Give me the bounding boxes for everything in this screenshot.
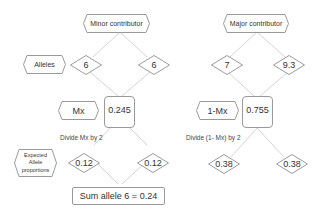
minor-allele-b: 6 [138, 55, 170, 75]
major-allele-b: 9.3 [273, 55, 305, 75]
minor-allele-a: 6 [70, 55, 102, 75]
mx-label: Mx [58, 101, 99, 120]
major-contributor-node: Major contributor [223, 14, 289, 33]
minor-proportion-b: 0.12 [137, 153, 169, 173]
sum-allele-result: Sum allele 6 = 0.24 [72, 187, 165, 205]
mx-value: 0.245 [104, 96, 135, 128]
alleles-label: Alleles [23, 55, 66, 74]
minor-proportion-a: 0.12 [68, 153, 100, 173]
one-minus-mx-value: 0.755 [242, 96, 273, 128]
divide-mx-note: Divide Mx by 2 [60, 134, 103, 141]
major-allele-a: 7 [211, 55, 243, 75]
major-proportion-a: 0.38 [208, 154, 240, 174]
minor-contributor-node: Minor contributor [83, 14, 150, 33]
divide-one-minus-mx-note: Divide (1- Mx) by 2 [186, 134, 241, 141]
one-minus-mx-label: 1-Mx [196, 101, 239, 120]
expected-allele-proportions-label: Expected Allele proportions [14, 149, 57, 177]
major-proportion-b: 0.38 [276, 154, 308, 174]
